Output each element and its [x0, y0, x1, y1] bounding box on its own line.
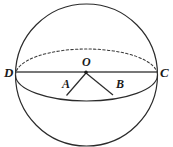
sphere-outline	[16, 4, 158, 146]
center-point-dot	[84, 71, 87, 74]
sphere-diagram: D C O A B	[0, 0, 173, 147]
radius-segment-ob	[86, 73, 113, 95]
equator-front-arc	[16, 75, 158, 101]
sphere-diagram-canvas	[0, 0, 173, 147]
label-point-a: A	[62, 78, 70, 90]
label-point-o: O	[82, 56, 91, 68]
label-point-c: C	[160, 66, 169, 79]
label-point-b: B	[116, 78, 124, 90]
label-point-d: D	[4, 66, 13, 79]
